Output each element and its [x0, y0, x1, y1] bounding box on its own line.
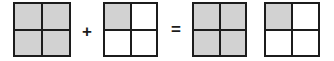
square-3-cell-bottom-right — [220, 30, 246, 56]
plus-operator-icon: + — [76, 23, 98, 43]
square-1-cell-bottom-right — [42, 30, 69, 56]
square-3-cell-top-left — [194, 4, 220, 30]
area-model-square-2 — [103, 2, 158, 57]
square-3-cell-top-right — [220, 4, 246, 30]
area-model-figure: + = — [0, 0, 334, 61]
square-2-cell-top-left — [105, 4, 131, 30]
area-model-square-1 — [13, 2, 71, 57]
square-4-cell-top-right — [292, 4, 318, 30]
square-4-cell-top-left — [266, 4, 292, 30]
square-1-cell-bottom-left — [15, 30, 42, 56]
square-1-cell-top-right — [42, 4, 69, 30]
square-2-cell-top-right — [131, 4, 157, 30]
square-2-cell-bottom-left — [105, 30, 131, 56]
square-4-cell-bottom-left — [266, 30, 292, 56]
square-3-cell-bottom-left — [194, 30, 220, 56]
area-model-square-4 — [264, 2, 320, 57]
equals-operator-icon: = — [164, 21, 188, 41]
square-1-cell-top-left — [15, 4, 42, 30]
square-4-cell-bottom-right — [292, 30, 318, 56]
area-model-square-3 — [192, 2, 247, 57]
square-2-cell-bottom-right — [131, 30, 157, 56]
